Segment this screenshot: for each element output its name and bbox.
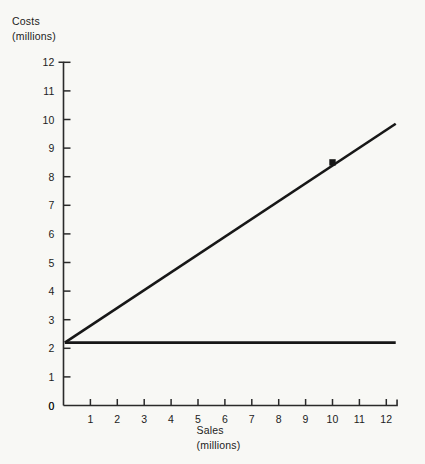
y-tick-label: 5 bbox=[48, 257, 54, 269]
data-point-marker bbox=[329, 159, 335, 165]
y-axis-spine bbox=[59, 62, 64, 405]
tick-marks bbox=[64, 62, 387, 405]
y-tick-label: 1 bbox=[48, 371, 54, 383]
y-tick-label: 7 bbox=[48, 199, 54, 211]
x-axis-spine bbox=[64, 400, 398, 406]
y-tick-label: 4 bbox=[48, 285, 54, 297]
data-markers bbox=[329, 159, 335, 165]
y-tick-label: 6 bbox=[48, 228, 54, 240]
y-tick-label: 3 bbox=[48, 314, 54, 326]
chart-page: Costs (millions) 01234567891011120123456… bbox=[0, 0, 425, 464]
y-tick-label: 0 bbox=[48, 400, 54, 412]
y-tick-label: 10 bbox=[42, 114, 54, 126]
x-axis-label-line2: (millions) bbox=[197, 438, 241, 453]
x-axis-label: Sales (millions) bbox=[0, 423, 425, 453]
y-tick-label: 8 bbox=[48, 171, 54, 183]
y-tick-label: 2 bbox=[48, 342, 54, 354]
x-axis-label-line1: Sales bbox=[197, 423, 241, 438]
y-tick-label: 9 bbox=[48, 142, 54, 154]
y-tick-label: 11 bbox=[43, 85, 54, 97]
data-series bbox=[65, 124, 396, 343]
series-line bbox=[65, 124, 396, 343]
y-tick-label: 12 bbox=[42, 56, 54, 68]
chart-canvas: 01234567891011120123456789101112 bbox=[0, 0, 425, 464]
